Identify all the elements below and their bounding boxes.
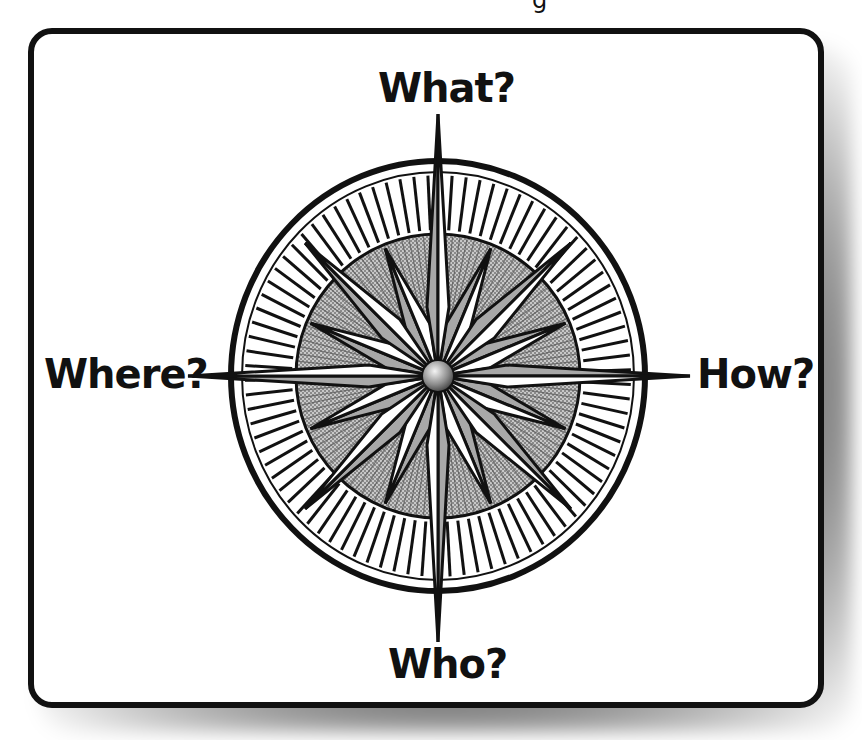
label-east-how: How?: [697, 354, 814, 394]
label-south-who: Who?: [388, 644, 507, 684]
center-hub: [422, 360, 454, 392]
label-north-what: What?: [378, 68, 515, 108]
label-west-where: Where?: [44, 354, 208, 394]
